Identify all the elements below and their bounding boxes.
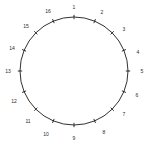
tick-label-5: 5 xyxy=(141,69,144,74)
tick-label-10: 10 xyxy=(43,132,49,137)
tick-label-7: 7 xyxy=(123,112,126,117)
tick-label-12: 12 xyxy=(11,99,17,104)
tick-label-14: 14 xyxy=(9,46,15,51)
tick-label-13: 13 xyxy=(5,69,11,74)
tick-label-6: 6 xyxy=(136,93,139,98)
tick-label-3: 3 xyxy=(123,27,126,32)
tick-mark-group xyxy=(18,15,130,127)
tick-label-16: 16 xyxy=(45,9,51,14)
tick-label-11: 11 xyxy=(25,119,30,124)
tick-label-8: 8 xyxy=(103,130,106,135)
tick-label-4: 4 xyxy=(137,50,140,55)
tick-label-15: 15 xyxy=(23,24,29,29)
tick-label-9: 9 xyxy=(73,136,76,141)
tick-label-2: 2 xyxy=(101,10,104,15)
circle-tick-diagram: 12345678910111213141516 xyxy=(0,0,151,152)
tick-label-1: 1 xyxy=(73,5,76,10)
